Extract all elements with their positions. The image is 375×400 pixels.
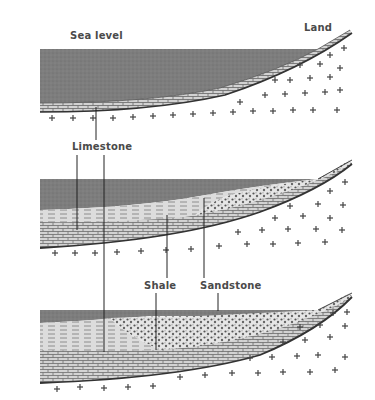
shale-label: Shale	[144, 280, 176, 291]
limestone-label: Limestone	[72, 141, 132, 152]
panel-3	[40, 293, 352, 392]
sea-level-label: Sea level	[70, 30, 123, 41]
panel-2	[40, 160, 352, 256]
sedimentation-diagram: Sea level Land Limestone Shale Sandstone	[0, 0, 375, 400]
panel-1	[40, 30, 352, 121]
land-label: Land	[304, 22, 332, 33]
sandstone-label: Sandstone	[200, 280, 262, 291]
